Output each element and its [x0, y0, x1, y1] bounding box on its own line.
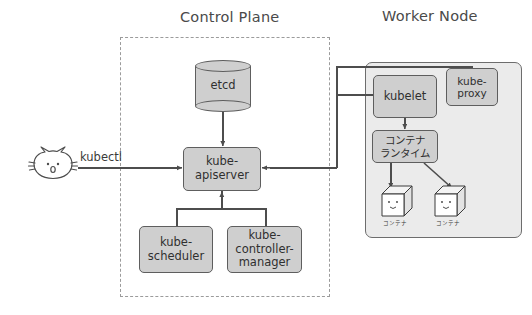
line-bus-to-scheduler [176, 208, 178, 227]
worker-node-title: Worker Node [382, 8, 478, 24]
etcd-cylinder-bottom [195, 100, 251, 112]
line-etcd-to-apiserver [222, 112, 224, 142]
cat-face-icon [29, 147, 78, 179]
container-runtime-box[interactable]: コンテナ ランタイム [372, 130, 438, 163]
kubectl-label: kubectl [80, 150, 122, 164]
line-bus-horizontal [176, 208, 266, 210]
etcd-label: etcd [195, 78, 251, 92]
line-trunk-to-kubelet [336, 94, 374, 96]
line-bus-to-controller-manager [265, 208, 267, 227]
etcd-cylinder-top [195, 60, 251, 72]
line-kubectl-to-apiserver [78, 167, 178, 169]
line-kubelet-to-runtime [404, 118, 406, 127]
kubelet-box[interactable]: kubelet [373, 75, 437, 118]
kube-proxy-box[interactable]: kube- proxy [446, 68, 498, 106]
line-runtime-to-container-1 [390, 163, 392, 187]
container-label-2: コンテナ [428, 219, 468, 227]
etcd-datastore[interactable]: etcd [195, 60, 251, 112]
control-plane-title: Control Plane [180, 9, 279, 25]
kube-controller-manager-box[interactable]: kube- controller- manager [227, 226, 302, 273]
diagram-canvas: Control Plane Worker Node [0, 0, 532, 315]
line-worker-trunk-vertical [336, 67, 338, 168]
kube-scheduler-box[interactable]: kube- scheduler [139, 226, 213, 273]
kube-apiserver-box[interactable]: kube- apiserver [183, 147, 261, 191]
line-apiserver-to-bus [221, 191, 223, 209]
line-worker-to-apiserver [270, 167, 337, 169]
container-label-1: コンテナ [375, 219, 415, 227]
